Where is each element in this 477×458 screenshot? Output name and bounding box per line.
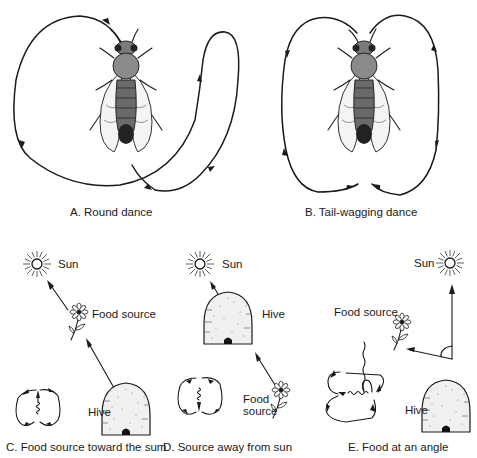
sun-icon xyxy=(436,250,464,276)
sun-label: Sun xyxy=(58,258,78,270)
bee-icon xyxy=(328,29,400,152)
dance-path-icon xyxy=(178,378,222,415)
caption-c: C. Food source toward the sum xyxy=(6,441,166,453)
dance-path-icon xyxy=(16,388,60,426)
caption-d: D. Source away from sun xyxy=(163,441,292,453)
panel-food-toward-sun: Sun Food source Hive C. Food source towa… xyxy=(6,251,166,453)
sun-label: Sun xyxy=(414,257,434,269)
hive-label: Hive xyxy=(88,406,111,418)
angle-marker xyxy=(441,346,452,357)
sun-label: Sun xyxy=(222,258,242,270)
food-source-label: Food source xyxy=(92,308,156,320)
panel-source-away-from-sun: Sun Hive Food source D. Source away from… xyxy=(163,251,292,453)
flower-icon xyxy=(392,313,411,350)
food-label-line1: Food xyxy=(243,393,269,405)
food-source-label: Food source xyxy=(334,306,398,318)
panel-food-at-angle: Sun Food source Hive E. Food at an angle xyxy=(326,250,470,453)
caption-b: B. Tail-wagging dance xyxy=(305,206,417,218)
direction-arrow xyxy=(257,356,275,385)
direction-arrow xyxy=(410,350,452,359)
food-label-line2: source xyxy=(243,405,278,417)
panel-round-dance: A. Round dance xyxy=(14,16,239,218)
panel-tail-wagging-dance: B. Tail-wagging dance xyxy=(282,15,439,218)
dance-path-icon xyxy=(326,342,384,422)
bee-dance-diagram: A. Round dance B. Tail-wagging dance Sun… xyxy=(0,0,477,458)
sun-icon xyxy=(23,251,51,277)
bee-icon xyxy=(90,29,162,152)
hive-label: Hive xyxy=(405,404,428,416)
direction-arrow xyxy=(88,342,114,388)
sun-icon xyxy=(186,251,214,277)
hive-icon xyxy=(204,292,252,344)
hive-icon xyxy=(422,380,470,432)
caption-a: A. Round dance xyxy=(70,206,152,218)
flower-icon xyxy=(69,303,88,340)
hive-label: Hive xyxy=(262,308,285,320)
caption-e: E. Food at an angle xyxy=(348,441,448,453)
